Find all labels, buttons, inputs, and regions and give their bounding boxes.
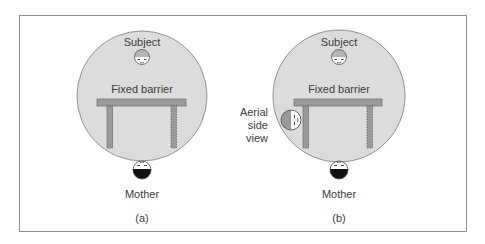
barrier-label: Fixed barrier [111,83,173,95]
subject-label: Subject [321,36,358,48]
mother-head-icon [329,161,349,180]
panel-caption: (a) [135,212,148,224]
mother-label: Mother [322,188,357,200]
panel-a: Subject Fixed barrier M [77,31,207,224]
side-view-label-line2: side [248,119,268,131]
mother-label: Mother [125,188,160,200]
barrier-label: Fixed barrier [308,83,370,95]
mother-head-icon [132,161,152,180]
visual-cliff-diagram: Subject Fixed barrier M [0,0,485,244]
side-view-label-line1: Aerial [240,106,268,118]
subject-label: Subject [124,36,161,48]
panel-caption: (b) [332,212,345,224]
panel-b: Subject Fixed barrier Aerial [240,30,405,224]
side-view-label-line3: view [246,132,268,144]
